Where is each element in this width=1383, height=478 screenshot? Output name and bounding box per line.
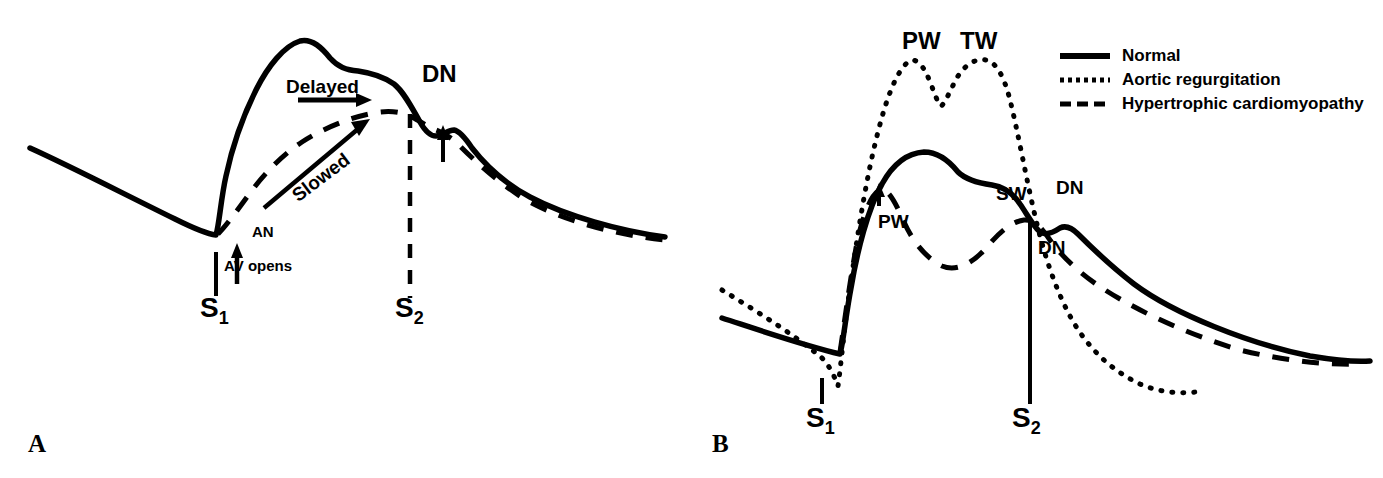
panel-a-slowed-arrow-icon <box>264 119 370 208</box>
panel-a-av-opens-label: AV opens <box>224 258 292 273</box>
panel-b-dicrotic-notch-hcm-label: DN <box>1038 238 1065 257</box>
panel-a-s2-subscript: 2 <box>414 308 424 328</box>
legend-label-normal: Normal <box>1122 46 1181 66</box>
legend-key-dashed-icon <box>1058 94 1112 114</box>
legend-key-dotted-icon <box>1058 70 1112 90</box>
panel-b-s1-label: S1 <box>806 404 835 437</box>
legend-item-aortic-regurgitation: Aortic regurgitation <box>1058 68 1364 92</box>
panel-a-s1-subscript: 1 <box>219 308 229 328</box>
panel-a-anacrotic-notch-label: AN <box>252 224 274 239</box>
panel-a-s1-text: S <box>200 292 219 323</box>
panel-a-s2-text: S <box>395 292 414 323</box>
panel-b-secondary-wave-label: SW <box>996 184 1027 203</box>
legend-key-solid-icon <box>1058 46 1112 66</box>
panel-a-s2-label: S2 <box>395 294 424 327</box>
panel-a-s1-label: S1 <box>200 294 229 327</box>
panel-b-s1-subscript: 1 <box>825 418 835 438</box>
panel-b-s1-text: S <box>806 402 825 433</box>
panel-a-letter: A <box>28 430 46 458</box>
panel-b-tidal-wave-label: TW <box>960 29 997 53</box>
panel-b-letter: B <box>712 430 729 458</box>
figure-arterial-pulse-waveforms: Delayed Slowed AN AV opens DN S1 S2 A PW… <box>0 0 1383 478</box>
panel-a-dicrotic-notch-label: DN <box>422 62 457 86</box>
legend-item-hypertrophic-cardiomyopathy: Hypertrophic cardiomyopathy <box>1058 92 1364 116</box>
panel-b-s2-text: S <box>1012 402 1031 433</box>
panel-b-percussion-wave-hcm-label: PW <box>878 212 909 231</box>
panel-a-delayed-label: Delayed <box>286 77 359 96</box>
panel-b-s2-subscript: 2 <box>1031 418 1041 438</box>
legend-item-normal: Normal <box>1058 44 1364 68</box>
legend: Normal Aortic regurgitation Hypertrophic… <box>1058 44 1364 116</box>
panel-b-percussion-wave-top-label: PW <box>902 29 941 53</box>
panel-b-s2-label: S2 <box>1012 404 1041 437</box>
panel-b-dicrotic-notch-normal-label: DN <box>1056 178 1083 197</box>
legend-label-hypertrophic-cardiomyopathy: Hypertrophic cardiomyopathy <box>1122 94 1364 114</box>
legend-label-aortic-regurgitation: Aortic regurgitation <box>1122 70 1281 90</box>
panel-b-hypertrophic-cardiomyopathy-curve <box>840 190 1360 365</box>
